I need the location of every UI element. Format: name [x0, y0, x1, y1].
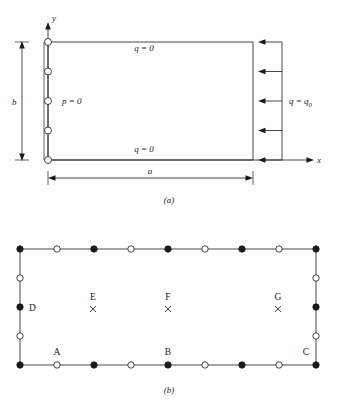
mesh-node-corner	[17, 362, 23, 368]
mesh-node-corner	[239, 362, 245, 368]
x-axis-label: x	[316, 155, 321, 165]
mesh-node-corner	[239, 246, 245, 252]
width-dimension-label: a	[148, 166, 153, 176]
mesh-node-midside	[313, 275, 319, 281]
mesh-node-midside	[128, 246, 134, 252]
interior-marker-e-label: E	[90, 292, 96, 302]
mesh-node-midside	[17, 333, 23, 339]
mesh-node-midside	[17, 275, 23, 281]
mesh-node-midside	[313, 333, 319, 339]
interior-marker-f: F	[165, 292, 171, 312]
height-dimension-label: b	[12, 97, 17, 107]
panel-b-caption: (b)	[164, 385, 175, 395]
mesh-node-corner	[313, 304, 319, 310]
mesh-node-midside	[276, 246, 282, 252]
mesh-node-corner	[165, 362, 171, 368]
mesh-node-corner	[313, 362, 319, 368]
figure-root: y x	[0, 0, 339, 414]
traction-load-right	[258, 39, 282, 163]
roller-support	[45, 39, 52, 46]
node-label-c: C	[303, 347, 309, 357]
mesh-node-corner	[17, 304, 23, 310]
mesh-node-midside	[276, 362, 282, 368]
left-edge-condition-label: p = 0	[61, 96, 82, 106]
roller-support	[45, 127, 52, 134]
mesh-node-corner	[91, 362, 97, 368]
interior-marker-e: E	[90, 292, 96, 312]
bottom-edge-condition-label: q = 0	[134, 144, 154, 154]
mesh-node-midside	[202, 362, 208, 368]
panel-a: y x	[0, 0, 339, 207]
mesh-node-midside	[54, 246, 60, 252]
mesh-node-midside	[54, 362, 60, 368]
panel-a-caption: (a)	[164, 195, 175, 205]
interior-marker-g-label: G	[275, 292, 282, 302]
mesh-node-midside	[202, 246, 208, 252]
roller-support	[45, 68, 52, 75]
top-edge-condition-label: q = 0	[134, 43, 154, 53]
mesh-node-corner	[313, 246, 319, 252]
interior-marker-g: G	[275, 292, 282, 312]
roller-support	[45, 98, 52, 105]
right-edge-condition-label: q = q0	[289, 96, 313, 108]
interior-marker-f-label: F	[165, 292, 170, 302]
node-label-d: D	[29, 303, 36, 313]
node-label-b: B	[165, 347, 171, 357]
mesh-node-corner	[91, 246, 97, 252]
panel-b: E F G D A B C (b)	[0, 207, 339, 414]
height-dimension	[15, 41, 29, 161]
mesh-node-midside	[128, 362, 134, 368]
mesh-node-corner	[17, 246, 23, 252]
mesh-node-corner	[165, 246, 171, 252]
y-axis-label: y	[51, 13, 56, 23]
node-label-a: A	[54, 347, 61, 357]
roller-support	[45, 157, 52, 164]
